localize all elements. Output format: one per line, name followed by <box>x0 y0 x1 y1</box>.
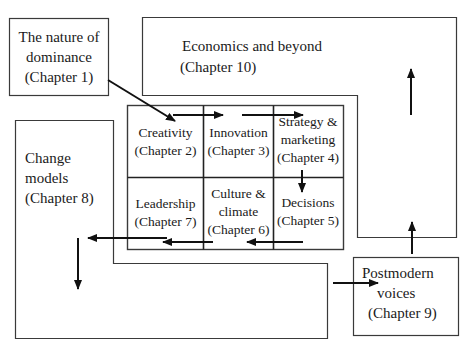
arrow-ch1-to-ch2 <box>108 80 175 121</box>
cell-chapter-5-line-2: (Chapter 5) <box>272 212 344 230</box>
label-chapter-9: Postmodern voices (Chapter 9) <box>353 263 459 323</box>
label-chapter-1-line-3: (Chapter 1) <box>9 67 109 87</box>
cell-chapter-3-line-2: (Chapter 3) <box>202 142 275 160</box>
cell-chapter-2: Creativity (Chapter 2) <box>127 124 204 160</box>
cell-chapter-4-line-1: Strategy & <box>272 113 344 131</box>
label-chapter-9-line-2: voices <box>353 283 459 303</box>
cell-chapter-3-line-1: Innovation <box>202 124 275 142</box>
cell-chapter-7-line-1: Leadership <box>127 195 204 213</box>
cell-chapter-6-line-3: (Chapter 6) <box>202 221 275 239</box>
cell-chapter-4: Strategy & marketing (Chapter 4) <box>272 113 344 167</box>
cell-chapter-7-line-2: (Chapter 7) <box>127 213 204 231</box>
cell-chapter-4-line-2: marketing <box>272 131 344 149</box>
label-chapter-8-line-2: models <box>25 168 94 188</box>
cell-chapter-4-line-3: (Chapter 4) <box>272 149 344 167</box>
label-chapter-9-line-1: Postmodern <box>353 263 459 283</box>
cell-chapter-5: Decisions (Chapter 5) <box>272 194 344 230</box>
label-chapter-8-line-1: Change <box>25 148 94 168</box>
label-chapter-1-line-2: dominance <box>9 47 109 67</box>
label-chapter-10-line-2: (Chapter 10) <box>180 57 322 78</box>
cell-chapter-6-line-2: climate <box>202 203 275 221</box>
cell-chapter-6: Culture & climate (Chapter 6) <box>202 185 275 239</box>
label-chapter-1-line-1: The nature of <box>9 27 109 47</box>
label-chapter-10: Economics and beyond (Chapter 10) <box>182 36 322 78</box>
cell-chapter-3: Innovation (Chapter 3) <box>202 124 275 160</box>
cell-chapter-5-line-1: Decisions <box>272 194 344 212</box>
cell-chapter-2-line-1: Creativity <box>127 124 204 142</box>
label-chapter-10-line-1: Economics and beyond <box>182 36 322 57</box>
cell-chapter-2-line-2: (Chapter 2) <box>127 142 204 160</box>
cell-chapter-6-line-1: Culture & <box>202 185 275 203</box>
label-chapter-8-line-3: (Chapter 8) <box>25 188 94 208</box>
cell-chapter-7: Leadership (Chapter 7) <box>127 195 204 231</box>
label-chapter-1: The nature of dominance (Chapter 1) <box>9 27 109 87</box>
label-chapter-9-line-3: (Chapter 9) <box>353 303 459 323</box>
label-chapter-8: Change models (Chapter 8) <box>25 148 94 208</box>
